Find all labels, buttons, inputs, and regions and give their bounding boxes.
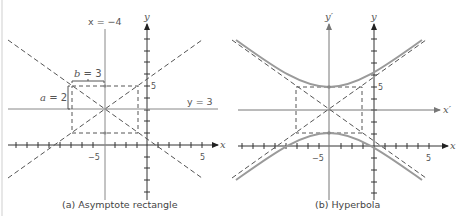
caption-b: (b) Hyperbola: [315, 199, 380, 210]
x-axis: x −5 5: [8, 139, 226, 162]
label-b: b = 3: [74, 68, 102, 79]
vertex-bottom-b: [327, 131, 331, 135]
y-axis-label-b: y: [370, 11, 377, 22]
x-axis-label: x: [220, 139, 226, 150]
tick-label-x5-b: 5: [426, 154, 431, 163]
tick-label-y5-b: 5: [378, 83, 383, 92]
panel-a: x −5 5 y 5: [2, 0, 226, 216]
vertex-bottom: [103, 131, 106, 134]
vertex-top-b: [327, 85, 331, 89]
label-x-neg4: x = −4: [88, 16, 122, 27]
x-prime-label: x′: [443, 104, 452, 115]
tick-label-x5: 5: [200, 153, 205, 162]
y-prime-label: y′: [324, 11, 334, 22]
tick-label-neg5: −5: [88, 153, 100, 162]
label-a: a = 2: [40, 92, 67, 103]
label-y-3: y = 3: [187, 96, 213, 107]
caption-a: (a) Asymptote rectangle: [62, 199, 178, 210]
x-axis-label-b: x: [450, 140, 456, 151]
x-axis-b: x −5 5: [238, 140, 456, 163]
tick-label-neg5-b: −5: [312, 154, 324, 163]
y-axis-label: y: [143, 11, 150, 22]
b-bracket: [72, 81, 104, 83]
figure-canvas: x −5 5 y 5: [0, 0, 458, 216]
y-axis: y 5: [143, 11, 156, 200]
a-bracket: [68, 86, 70, 109]
tick-label-y5: 5: [151, 82, 156, 91]
y-axis-b: y 5: [370, 11, 383, 200]
panel-b: x −5 5 y 5: [232, 11, 456, 210]
vertex-top: [103, 84, 106, 87]
